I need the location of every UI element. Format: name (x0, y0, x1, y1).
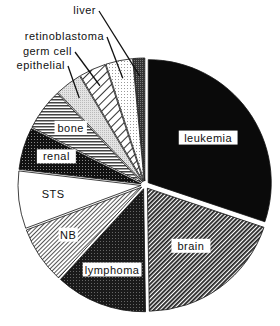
slice-label-sts: STS (42, 188, 65, 200)
slice-label-liver: liver (73, 4, 96, 16)
slice-label-renal: renal (43, 150, 70, 162)
slice-label-nb: NB (60, 229, 76, 241)
slice-label-bone: bone (57, 122, 83, 134)
slice-label-germ-cell: germ cell (23, 45, 72, 57)
slice-label-lymphoma: lymphoma (85, 264, 140, 276)
slice-label-epithelial: epithelial (17, 59, 65, 71)
slice-label-leukemia: leukemia (184, 132, 232, 144)
slice-label-retinoblastoma: retinoblastoma (25, 30, 105, 42)
slice-label-brain: brain (177, 240, 204, 252)
pie-slices (18, 58, 271, 312)
pie-chart: leukemiabrainlymphomaNBSTSrenalboneepith… (0, 0, 280, 326)
